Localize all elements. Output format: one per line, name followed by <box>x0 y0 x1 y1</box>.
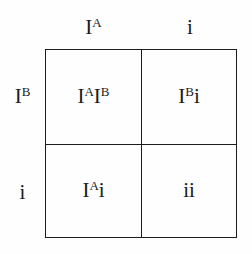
row-header-0-base: I <box>15 84 22 108</box>
row-header-1-base: i <box>20 180 26 204</box>
column-header-0-allele: IA <box>85 15 101 39</box>
genotype-1-0-allele2-base: i <box>99 178 105 202</box>
row-header-1: i <box>0 162 45 222</box>
genotype-0-0-allele1-superscript: A <box>84 84 93 99</box>
genotype-0-1-allele1-superscript: B <box>185 84 194 99</box>
punnett-grid: IAIB IBi IAi ii <box>45 49 237 238</box>
genotype-0-0: IAIB <box>77 84 109 109</box>
genotype-0-0-allele2-superscript: B <box>101 84 110 99</box>
row-header-1-allele: i <box>20 180 26 204</box>
genotype-1-1: ii <box>183 178 195 203</box>
genotype-0-1-allele2-base: i <box>194 84 200 108</box>
punnett-cell-0-1: IBi <box>141 50 236 144</box>
punnett-cell-1-0: IAi <box>46 144 141 238</box>
genotype-0-1: IBi <box>178 84 200 109</box>
genotype-0-0-allele2-base: I <box>94 84 101 108</box>
genotype-1-0: IAi <box>82 178 104 203</box>
punnett-cell-1-1: ii <box>141 144 236 238</box>
column-header-0: IA <box>45 10 142 44</box>
row-header-0-allele: IB <box>15 84 31 108</box>
column-header-1-base: i <box>187 15 193 39</box>
row-header-0-superscript: B <box>22 84 31 99</box>
genotype-1-1-allele2-base: i <box>189 178 195 202</box>
punnett-cell-0-0: IAIB <box>46 50 141 144</box>
column-header-0-superscript: A <box>92 15 101 30</box>
column-header-1: i <box>142 10 238 44</box>
row-header-0: IB <box>0 66 45 126</box>
genotype-1-0-allele1-superscript: A <box>89 178 98 193</box>
punnett-square-figure: IA i IB i IAIB IBi IAi ii <box>0 0 252 254</box>
column-header-1-allele: i <box>187 15 193 39</box>
